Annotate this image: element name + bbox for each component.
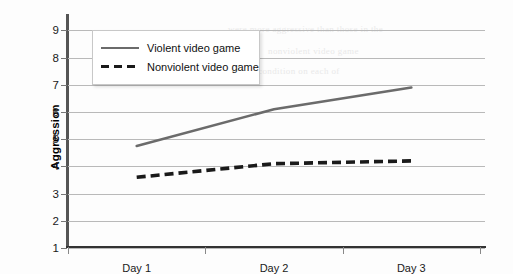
y-tick-label-2: 2 bbox=[53, 215, 59, 227]
y-tick-label-3: 3 bbox=[53, 188, 59, 200]
y-tick-1 bbox=[61, 248, 67, 249]
y-tick-label-5: 5 bbox=[53, 133, 59, 145]
series-line-2 bbox=[137, 161, 412, 177]
y-tick-label-4: 4 bbox=[53, 160, 59, 172]
y-tick-9 bbox=[61, 30, 67, 31]
aggression-line-chart: were more aggressive than those in the n… bbox=[0, 0, 513, 274]
y-tick-7 bbox=[61, 85, 67, 86]
x-tick-1 bbox=[205, 247, 206, 254]
y-tick-4 bbox=[61, 166, 67, 167]
y-tick-label-9: 9 bbox=[53, 24, 59, 36]
legend-label-nonviolent: Nonviolent video game bbox=[147, 61, 259, 73]
x-tick-3 bbox=[480, 247, 481, 254]
y-tick-label-6: 6 bbox=[53, 106, 59, 118]
x-tick-2 bbox=[343, 247, 344, 254]
legend-label-violent: Violent video game bbox=[147, 42, 240, 54]
gridline-1 bbox=[68, 248, 485, 249]
x-tick-label-3: Day 3 bbox=[397, 262, 426, 274]
y-tick-3 bbox=[61, 194, 67, 195]
y-tick-6 bbox=[61, 112, 67, 113]
y-tick-5 bbox=[61, 139, 67, 140]
dashed-line-swatch bbox=[101, 61, 139, 73]
y-tick-2 bbox=[61, 221, 67, 222]
legend-item-nonviolent: Nonviolent video game bbox=[101, 57, 251, 76]
x-tick-0 bbox=[68, 247, 69, 254]
legend-item-violent: Violent video game bbox=[101, 38, 251, 57]
y-tick-label-8: 8 bbox=[53, 52, 59, 64]
solid-line-swatch bbox=[101, 42, 139, 54]
x-tick-label-1: Day 1 bbox=[122, 262, 151, 274]
x-tick-label-2: Day 2 bbox=[260, 262, 289, 274]
y-tick-label-1: 1 bbox=[53, 242, 59, 254]
chart-legend: Violent video game Nonviolent video game bbox=[92, 30, 260, 85]
y-tick-label-7: 7 bbox=[53, 79, 59, 91]
y-tick-8 bbox=[61, 58, 67, 59]
series-line-1 bbox=[137, 88, 412, 147]
